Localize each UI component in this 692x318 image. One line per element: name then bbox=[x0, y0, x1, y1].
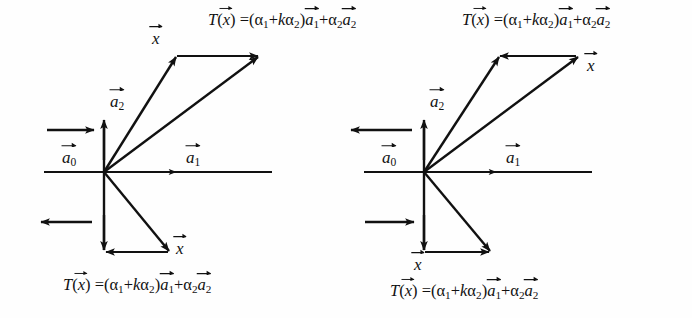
left-x-vector-upper bbox=[104, 57, 176, 172]
left-x-vector-lower bbox=[104, 172, 169, 251]
left-upper-x-label: x bbox=[152, 30, 160, 47]
right-a0-label: a0 bbox=[382, 149, 396, 169]
vector-a1-accent: a1 bbox=[305, 12, 319, 31]
vector-transformation-figure: T(x) =(α1+kα2)a1+α2a2 x a2 a0 a1 x T(x) … bbox=[0, 0, 692, 318]
diagram-canvas bbox=[0, 0, 692, 318]
left-top-formula: T(x) =(α1+kα2)a1+α2a2 bbox=[208, 12, 356, 31]
right-Tx-vector-lower bbox=[424, 172, 490, 251]
right-a1-label: a1 bbox=[506, 149, 520, 169]
left-a2-label: a2 bbox=[110, 93, 124, 113]
right-lower-x-label: x bbox=[414, 256, 422, 273]
right-Tx-vector-upper bbox=[424, 57, 499, 172]
vector-x-accent: x bbox=[223, 12, 230, 29]
left-Tx-vector-upper bbox=[104, 57, 258, 172]
left-bottom-formula: T(x) =(α1+kα2)a1+α2a2 bbox=[63, 277, 211, 296]
right-bottom-formula: T(x) =(α1+kα2)a1+α2a2 bbox=[390, 283, 538, 302]
left-a1-label: a1 bbox=[186, 149, 200, 169]
left-lower-x-label: x bbox=[176, 240, 184, 257]
right-upper-x-label: x bbox=[587, 57, 595, 74]
right-x-vector-upper bbox=[424, 57, 578, 172]
right-a2-label: a2 bbox=[430, 93, 444, 113]
formula-T-of-x: T(x) = bbox=[208, 12, 249, 29]
vector-a2-accent: a2 bbox=[343, 12, 357, 31]
left-a0-label: a0 bbox=[62, 149, 76, 169]
right-top-formula: T(x) =(α1+kα2)a1+α2a2 bbox=[462, 12, 610, 31]
